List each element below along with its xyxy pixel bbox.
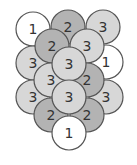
- circle-label: 2: [47, 107, 56, 123]
- circle-label: 3: [65, 56, 74, 72]
- circle-label: 1: [102, 54, 111, 70]
- circle-stack-diagram: 1233123333232231: [0, 0, 137, 165]
- diagram-canvas: 1233123333232231: [0, 0, 137, 165]
- circle-label: 3: [102, 89, 111, 105]
- circle-node: 3: [52, 80, 86, 114]
- circle-label: 3: [83, 38, 92, 54]
- circle-label: 3: [99, 19, 108, 35]
- circle-label: 3: [65, 89, 74, 105]
- circle-label: 1: [29, 21, 38, 37]
- circle-label: 1: [65, 125, 74, 141]
- circle-node: 3: [52, 47, 86, 81]
- circle-label: 3: [47, 72, 56, 88]
- circle-label: 3: [29, 55, 38, 71]
- circle-node: 1: [52, 116, 86, 150]
- circle-label: 2: [83, 72, 92, 88]
- circle-label: 2: [64, 19, 73, 35]
- circle-label: 2: [48, 38, 57, 54]
- circle-label: 3: [29, 89, 38, 105]
- circle-label: 2: [83, 107, 92, 123]
